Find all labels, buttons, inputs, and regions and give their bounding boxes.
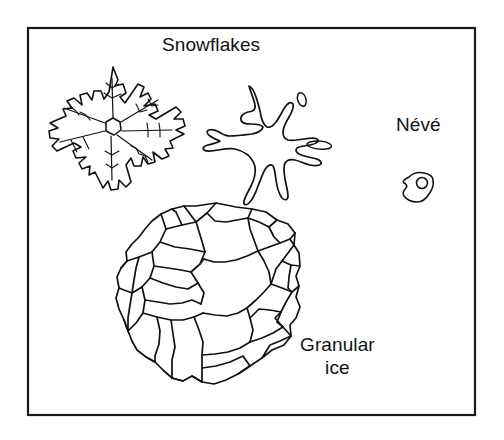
snow-metamorphism-figure: Snowflakes Névé Granularice (0, 0, 504, 440)
label-granular-line2: ice (300, 356, 375, 379)
figure-artwork (0, 0, 504, 440)
figure-border (28, 28, 475, 415)
dendritic-snowflake-icon (49, 67, 185, 190)
label-snowflakes: Snowflakes (162, 33, 260, 56)
granular-ice-aggregate-icon (116, 203, 300, 384)
neve-grain-icon (403, 173, 433, 202)
label-granular-line1: Granular (300, 334, 375, 355)
rounded-snowflake-icon (203, 86, 331, 205)
label-neve: Névé (396, 113, 441, 136)
label-granular-ice: Granularice (300, 333, 375, 379)
